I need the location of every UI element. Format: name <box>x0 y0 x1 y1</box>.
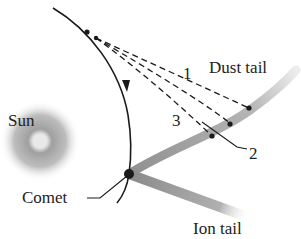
trajectory-3 <box>96 38 212 136</box>
dust-particle-1 <box>246 105 251 110</box>
sun-core <box>34 135 46 147</box>
ion-tail <box>129 174 250 218</box>
orbit-direction-arrow-icon <box>122 80 130 92</box>
trajectory-2 <box>96 38 230 123</box>
dust-particle-3 <box>209 133 214 138</box>
comet-leader <box>87 176 127 198</box>
comet-label: Comet <box>22 188 68 207</box>
sun-label: Sun <box>8 111 35 130</box>
orbit-point <box>84 29 89 34</box>
dust-tail-label: Dust tail <box>209 58 267 77</box>
comet-orbit <box>53 8 131 203</box>
label-3: 3 <box>172 111 181 130</box>
label-1: 1 <box>183 64 192 83</box>
ion-tail-label: Ion tail <box>193 219 242 238</box>
comet-tail-diagram: Sun 1 3 2 Dust tail Comet Ion tail <box>0 0 301 239</box>
dust-tail <box>129 70 296 174</box>
label-2: 2 <box>249 144 258 163</box>
dust-particle-2 <box>227 121 232 126</box>
